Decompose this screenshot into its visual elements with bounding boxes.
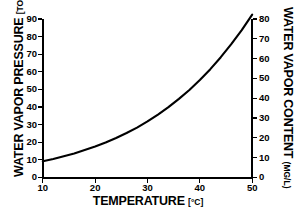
x-axis-title-text: TEMPERATURE xyxy=(93,194,185,208)
y-axis-right-tick xyxy=(253,157,257,158)
x-axis-tick-label: 10 xyxy=(28,182,58,193)
x-axis-tick-label: 40 xyxy=(185,182,215,193)
y-axis-right-tick xyxy=(253,117,257,118)
y-axis-right-tick-label: 20 xyxy=(259,132,283,143)
y-axis-left-tick-label: 40 xyxy=(13,101,37,112)
y-axis-left-tick-label: 90 xyxy=(13,13,37,24)
x-axis-unit: [°C] xyxy=(188,197,203,207)
x-axis-title: TEMPERATURE [°C] xyxy=(42,194,254,208)
plot-area: 0102030405060708090 01020304050607080 10… xyxy=(42,19,253,178)
y-axis-right-tick-label: 60 xyxy=(259,53,283,64)
y-axis-left-tick-label: 60 xyxy=(13,66,37,77)
y-axis-right-tick-label: 50 xyxy=(259,72,283,83)
x-axis-tick-label: 50 xyxy=(237,182,267,193)
x-axis-tick-label: 30 xyxy=(133,182,163,193)
y-axis-left-tick-label: 80 xyxy=(13,31,37,42)
y-axis-left-tick-label: 20 xyxy=(13,136,37,147)
y-axis-right-tick-label: 30 xyxy=(259,112,283,123)
y-axis-right-tick xyxy=(253,58,257,59)
x-axis-tick-label: 20 xyxy=(80,182,110,193)
y-axis-right-tick xyxy=(253,98,257,99)
y-axis-right-tick xyxy=(253,18,257,19)
data-curve xyxy=(42,19,253,179)
y-axis-left-tick-label: 70 xyxy=(13,48,37,59)
y-axis-right-tick xyxy=(253,177,257,178)
y-axis-right-unit: (MG/L) xyxy=(282,162,292,189)
y-axis-right-title: WATER VAPOR CONTENT (MG/L) xyxy=(281,7,295,177)
water-vapor-pressure-chart: WATER VAPOR PRESSURE [TORR] WATER VAPOR … xyxy=(0,0,301,213)
y-axis-right-tick xyxy=(253,78,257,79)
y-axis-right-tick-label: 40 xyxy=(259,92,283,103)
y-axis-right-tick-label: 0 xyxy=(259,171,283,182)
y-axis-right-tick xyxy=(253,137,257,138)
y-axis-left-tick-label: 0 xyxy=(13,171,37,182)
y-axis-right-tick-label: 10 xyxy=(259,152,283,163)
y-axis-right-tick xyxy=(253,38,257,39)
y-axis-right-tick-label: 70 xyxy=(259,33,283,44)
y-axis-left-tick-label: 10 xyxy=(13,154,37,165)
data-curve-path xyxy=(43,15,252,162)
y-axis-right-tick-label: 80 xyxy=(259,13,283,24)
y-axis-left-tick-label: 50 xyxy=(13,83,37,94)
y-axis-right-title-text: WATER VAPOR CONTENT xyxy=(281,7,295,158)
y-axis-left-tick-label: 30 xyxy=(13,119,37,130)
